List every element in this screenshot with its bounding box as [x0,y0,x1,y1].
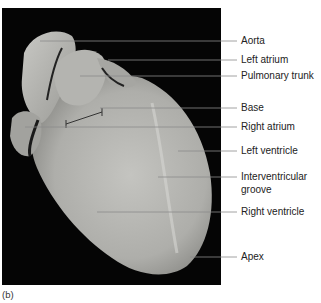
panel-letter: (b) [2,289,14,300]
label-right-ventricle: Right ventricle [241,206,304,218]
label-groove: groove [241,184,272,196]
label-right-atrium: Right atrium [241,121,295,133]
label-base: Base [241,102,264,114]
label-left-atrium: Left atrium [241,54,288,66]
label-left-ventricle: Left ventricle [241,145,298,157]
label-aorta: Aorta [241,35,265,47]
label-apex: Apex [241,251,264,263]
heart-figure: Aorta Left atrium Pulmonary trunk Base R… [0,0,321,303]
label-interventricular: Interventricular [241,171,307,183]
label-pulmonary-trunk: Pulmonary trunk [241,70,314,82]
